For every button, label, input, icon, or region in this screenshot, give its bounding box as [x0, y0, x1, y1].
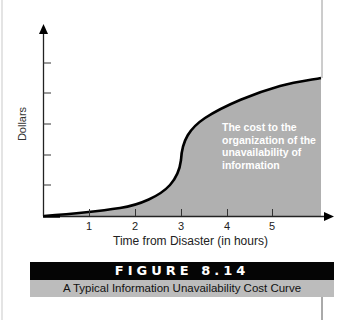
x-axis-arrow-icon — [324, 212, 334, 221]
x-axis-label: Time from Disaster (in hours) — [113, 234, 268, 248]
x-tick-label-4: 4 — [224, 220, 230, 232]
y-axis-label: Dollars — [16, 107, 28, 141]
x-tick-label-1: 1 — [86, 220, 92, 232]
x-tick-label-3: 3 — [178, 220, 184, 232]
x-tick-label-5: 5 — [269, 220, 275, 232]
chart-annotation: The cost to the organization of the unav… — [222, 121, 327, 171]
y-axis-arrow-icon — [39, 24, 48, 34]
figure-number: FIGURE 8.14 — [30, 262, 334, 280]
figure-caption: A Typical Information Unavailability Cos… — [30, 280, 334, 297]
x-tick-label-2: 2 — [132, 220, 138, 232]
y-ticks — [43, 63, 51, 185]
